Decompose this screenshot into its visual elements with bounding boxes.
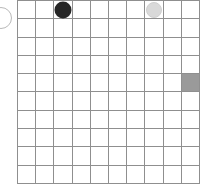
grid-cell[interactable] (163, 129, 181, 147)
grid-cell[interactable] (36, 147, 54, 165)
grid-cell[interactable] (72, 147, 90, 165)
grid-cell[interactable] (163, 1, 181, 19)
grid-cell[interactable] (72, 110, 90, 128)
grid-cell[interactable] (54, 92, 72, 110)
grid-cell[interactable] (181, 147, 199, 165)
grid-cell[interactable] (145, 165, 163, 183)
grid-cell[interactable] (108, 92, 126, 110)
grid-cell[interactable] (36, 1, 54, 19)
grid-cell[interactable] (163, 55, 181, 73)
grid-cell[interactable] (54, 110, 72, 128)
grid-cell[interactable] (18, 1, 36, 19)
grid-cell[interactable] (127, 19, 145, 37)
grid-cell-filled[interactable] (181, 74, 199, 92)
grid-cell[interactable] (18, 165, 36, 183)
grid-cell[interactable] (127, 92, 145, 110)
grid-cell[interactable] (90, 74, 108, 92)
grid-cell[interactable] (108, 1, 126, 19)
grid-cell[interactable] (90, 129, 108, 147)
grid-cell[interactable] (72, 55, 90, 73)
grid-cell[interactable] (145, 1, 163, 19)
grid-cell[interactable] (36, 37, 54, 55)
grid-cell[interactable] (145, 110, 163, 128)
grid-cell[interactable] (127, 165, 145, 183)
grid-cell[interactable] (108, 55, 126, 73)
grid-cell[interactable] (163, 19, 181, 37)
grid-cell[interactable] (108, 110, 126, 128)
grid-cell[interactable] (127, 74, 145, 92)
grid-cell[interactable] (90, 110, 108, 128)
grid-cell[interactable] (181, 55, 199, 73)
grid-cell[interactable] (18, 37, 36, 55)
grid-cell[interactable] (163, 37, 181, 55)
grid-cell[interactable] (163, 165, 181, 183)
grid-cell[interactable] (72, 92, 90, 110)
grid-cell[interactable] (18, 55, 36, 73)
grid-cell[interactable] (181, 92, 199, 110)
grid-cell[interactable] (72, 129, 90, 147)
grid-cell[interactable] (145, 92, 163, 110)
grid-cell[interactable] (108, 147, 126, 165)
grid-cell[interactable] (54, 74, 72, 92)
grid-cell[interactable] (54, 147, 72, 165)
grid-cell[interactable] (163, 147, 181, 165)
grid-cell[interactable] (36, 19, 54, 37)
grid-cell[interactable] (72, 19, 90, 37)
grid-cell[interactable] (108, 74, 126, 92)
grid-cell[interactable] (90, 1, 108, 19)
grid-cell[interactable] (181, 165, 199, 183)
grid-cell[interactable] (18, 110, 36, 128)
grid-board[interactable] (17, 0, 200, 184)
grid-cell[interactable] (127, 37, 145, 55)
grid-cell[interactable] (127, 1, 145, 19)
grid-cell[interactable] (54, 129, 72, 147)
grid-cell[interactable] (163, 110, 181, 128)
grid-cell[interactable] (54, 19, 72, 37)
grid-cell[interactable] (108, 37, 126, 55)
grid-cell[interactable] (163, 92, 181, 110)
grid-cell[interactable] (54, 1, 72, 19)
grid-cell[interactable] (36, 74, 54, 92)
grid-cell[interactable] (54, 165, 72, 183)
grid-cell[interactable] (36, 55, 54, 73)
dark-piece-icon[interactable] (54, 1, 71, 18)
grid-cell[interactable] (72, 1, 90, 19)
grid-cell[interactable] (127, 147, 145, 165)
grid-cell[interactable] (36, 92, 54, 110)
grid-cell[interactable] (72, 37, 90, 55)
grid-cell[interactable] (127, 129, 145, 147)
grid-cell[interactable] (181, 37, 199, 55)
grid-cell[interactable] (181, 129, 199, 147)
grid-cell[interactable] (54, 37, 72, 55)
grid-cell[interactable] (90, 55, 108, 73)
grid-cell[interactable] (36, 165, 54, 183)
grid-cell[interactable] (127, 110, 145, 128)
grid-cell[interactable] (54, 55, 72, 73)
grid-cell[interactable] (90, 165, 108, 183)
grid-cell[interactable] (18, 129, 36, 147)
grid-cell[interactable] (72, 165, 90, 183)
light-piece-icon[interactable] (146, 2, 162, 18)
grid-cell[interactable] (108, 19, 126, 37)
grid-cell[interactable] (90, 92, 108, 110)
grid-cell[interactable] (108, 165, 126, 183)
grid-cell[interactable] (108, 129, 126, 147)
grid-cell[interactable] (145, 55, 163, 73)
grid-cell[interactable] (18, 19, 36, 37)
grid-cell[interactable] (36, 110, 54, 128)
grid-cell[interactable] (90, 19, 108, 37)
grid-cell[interactable] (145, 74, 163, 92)
grid-cell[interactable] (127, 55, 145, 73)
grid-cell[interactable] (145, 37, 163, 55)
grid-cell[interactable] (181, 110, 199, 128)
grid-cell[interactable] (18, 74, 36, 92)
grid-cell[interactable] (145, 19, 163, 37)
grid-cell[interactable] (163, 74, 181, 92)
grid-cell[interactable] (18, 92, 36, 110)
grid-cell[interactable] (181, 19, 199, 37)
grid-cell[interactable] (145, 147, 163, 165)
grid-cell[interactable] (72, 74, 90, 92)
grid-cell[interactable] (90, 147, 108, 165)
grid-cell[interactable] (18, 147, 36, 165)
grid-cell[interactable] (90, 37, 108, 55)
